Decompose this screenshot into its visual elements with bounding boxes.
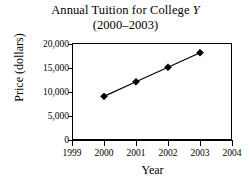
x-tick-mark-2001 <box>136 141 137 146</box>
x-axis-title: Year <box>72 163 233 178</box>
chart-figure: Annual Tuition for College Y (2000–2003)… <box>0 0 251 187</box>
y-tick-label-15000: 15,000 <box>33 63 69 73</box>
y-axis-title: Price (dollars) <box>12 20 27 116</box>
plot-area <box>72 43 232 140</box>
y-tick-label-5000: 5,000 <box>33 111 69 121</box>
chart-title-italic-y: Y <box>193 3 200 17</box>
x-tick-mark-2003 <box>200 141 201 146</box>
x-tick-mark-1999 <box>72 141 73 146</box>
chart-title-text: Annual Tuition for College <box>51 3 193 17</box>
y-tick-label-10000: 10,000 <box>33 87 69 97</box>
y-tick-label-20000: 20,000 <box>33 39 69 49</box>
x-tick-mark-2000 <box>104 141 105 146</box>
x-tick-mark-2002 <box>168 141 169 146</box>
y-tick-label-0: 0 <box>33 135 69 145</box>
x-tick-mark-2004 <box>232 141 233 146</box>
x-axis-tick-labels: 1999 2000 2001 2002 2003 2004 <box>0 148 251 162</box>
x-tick-label-2004: 2004 <box>212 148 251 159</box>
x-axis-line <box>72 140 233 141</box>
